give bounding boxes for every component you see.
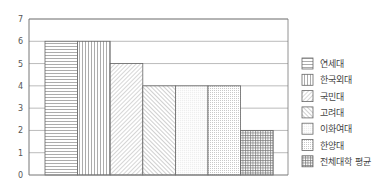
bar-3: [143, 86, 176, 175]
legend-swatch: [302, 123, 313, 134]
legend-label: 이화여대: [320, 123, 352, 134]
y-tick-label: 4: [18, 82, 23, 91]
y-tick-label: 3: [18, 104, 23, 113]
legend: 연세대한국외대국민대고려대이화여대한양대전체대학 평균: [302, 58, 371, 167]
y-tick-label: 0: [18, 171, 23, 180]
y-tick-label: 6: [18, 37, 23, 46]
legend-item: 국민대: [302, 91, 344, 102]
bar-5: [208, 86, 241, 175]
legend-label: 국민대: [320, 92, 344, 102]
legend-item: 이화여대: [302, 123, 352, 134]
bar-0: [45, 41, 78, 175]
y-tick-label: 2: [18, 126, 23, 135]
legend-label: 한양대: [320, 141, 344, 151]
legend-swatch: [302, 156, 313, 167]
bars: [45, 41, 273, 175]
legend-item: 한양대: [302, 140, 344, 151]
legend-swatch: [302, 140, 313, 151]
legend-item: 연세대: [302, 58, 344, 69]
legend-label: 전체대학 평균: [320, 157, 371, 167]
legend-swatch: [302, 58, 313, 69]
legend-label: 연세대: [320, 59, 344, 69]
y-tick-label: 1: [18, 149, 23, 158]
bar-6: [241, 130, 274, 175]
bar-chart: 01234567 연세대한국외대국민대고려대이화여대한양대전체대학 평균: [0, 0, 387, 187]
legend-item: 전체대학 평균: [302, 156, 371, 167]
y-tick-label: 5: [18, 60, 23, 69]
legend-label: 고려대: [320, 108, 344, 118]
bar-4: [175, 86, 208, 175]
legend-label: 한국외대: [320, 74, 352, 85]
bar-1: [78, 41, 111, 175]
legend-item: 한국외대: [302, 74, 352, 85]
y-tick-label: 7: [18, 15, 23, 24]
legend-swatch: [302, 74, 313, 85]
legend-swatch: [302, 107, 313, 118]
bar-2: [110, 64, 143, 175]
y-axis-ticks: 01234567: [18, 15, 23, 180]
legend-swatch: [302, 91, 313, 102]
legend-item: 고려대: [302, 107, 344, 118]
